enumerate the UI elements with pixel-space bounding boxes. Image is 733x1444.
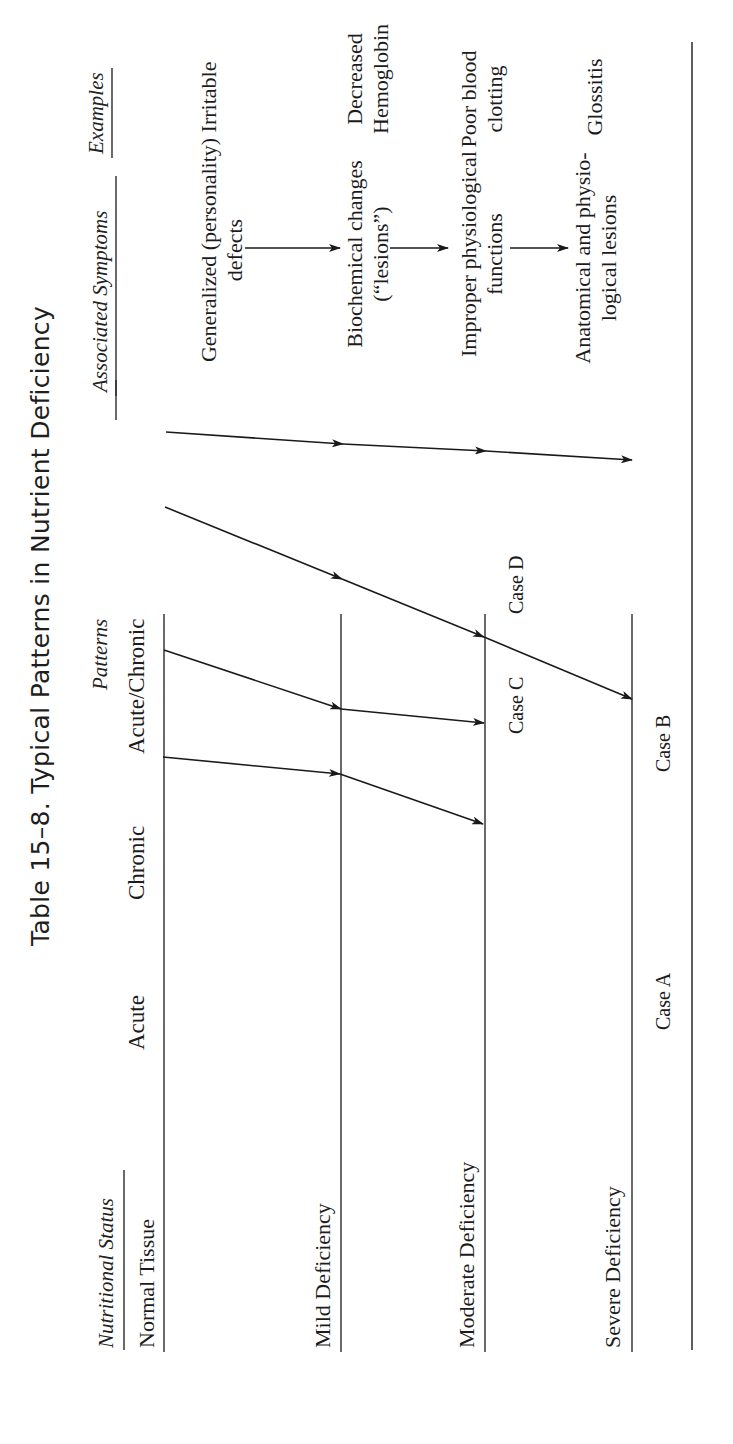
status-moderate-deficiency: Moderate Deficiency — [454, 1162, 480, 1348]
example-line: Poor blood — [456, 24, 482, 174]
pattern-label-acute: Acute — [124, 995, 150, 1050]
pattern-label-chronic: Chronic — [124, 826, 150, 900]
example-decreased-hemoglobin: Decreased Hemoglobin — [342, 0, 394, 164]
case-b-arrow-segment — [342, 579, 484, 637]
case-c-arrow-segment — [341, 709, 484, 723]
rotated-table-page: Table 15–8. Typical Patterns in Nutrient… — [0, 0, 733, 1444]
case-d-label: Case D — [505, 556, 528, 614]
deficiency-level-lines — [164, 614, 632, 1352]
symptom-line: defects — [222, 90, 248, 410]
case-c-label: Case C — [505, 677, 528, 734]
case-arrow-paths — [163, 432, 632, 824]
example-glossitis: Glossitis — [582, 22, 608, 172]
header-patterns: Patterns — [88, 619, 113, 690]
case-d-arrow-segment — [340, 774, 483, 824]
case-a-arrow-segment — [486, 451, 632, 460]
status-normal-tissue: Normal Tissue — [134, 1219, 160, 1348]
case-b-label: Case B — [652, 715, 675, 772]
case-a-label: Case A — [652, 973, 675, 1030]
status-mild-deficiency: Mild Deficiency — [310, 1203, 336, 1348]
case-b-arrow-segment — [165, 507, 342, 579]
example-line: Hemoglobin — [368, 0, 394, 164]
pattern-label-acute-chronic: Acute/Chronic — [124, 619, 150, 754]
example-poor-blood-clotting: Poor blood clotting — [456, 24, 508, 174]
header-associated-symptoms: Associated Symptoms — [88, 211, 113, 392]
case-d-arrow-segment — [163, 757, 340, 774]
table-title: Table 15–8. Typical Patterns in Nutrient… — [26, 306, 55, 946]
header-nutritional-status: Nutritional Status — [94, 1198, 119, 1348]
case-c-arrow-segment — [164, 650, 341, 709]
header-examples: Examples — [84, 72, 109, 154]
example-line: Irritable — [196, 22, 222, 172]
example-line: clotting — [482, 24, 508, 174]
example-irritable: Irritable — [196, 22, 222, 172]
status-severe-deficiency: Severe Deficiency — [600, 1186, 626, 1348]
case-a-arrow-segment — [343, 444, 486, 451]
case-a-arrow-segment — [166, 432, 343, 444]
example-line: Decreased — [342, 0, 368, 164]
example-line: Glossitis — [582, 22, 608, 172]
